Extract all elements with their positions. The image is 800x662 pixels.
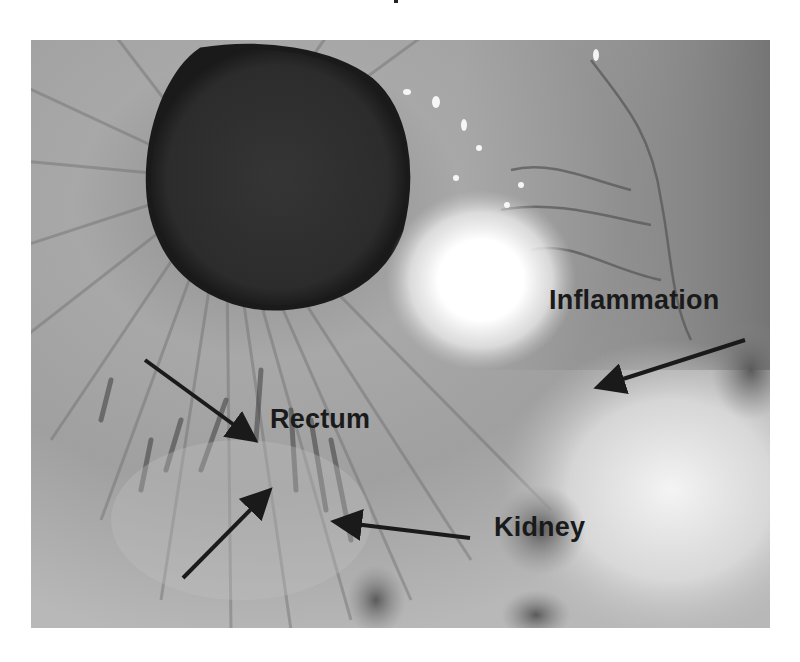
- cropped-title-remnant: [394, 0, 398, 3]
- iris-photograph: [31, 40, 770, 628]
- label-inflammation: Inflammation: [549, 285, 719, 316]
- label-rectum: Rectum: [270, 404, 370, 435]
- label-kidney: Kidney: [494, 512, 585, 543]
- annotated-iris-figure: Inflammation Rectum Kidney: [0, 0, 800, 662]
